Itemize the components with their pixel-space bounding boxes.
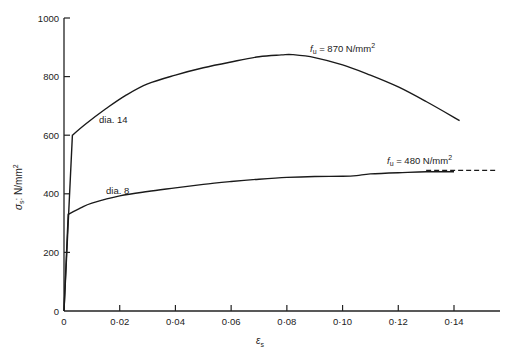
x-axis-title: εs (256, 335, 264, 348)
x-tick-label: 0·10 (333, 316, 352, 327)
x-ticks: 00·020·040·060·080·100·120·14 (61, 305, 463, 327)
y-tick-label: 0 (54, 306, 59, 317)
stress-strain-chart: 02004006008001000 00·020·040·060·080·100… (0, 0, 519, 361)
y-tick-label: 200 (43, 247, 59, 258)
x-tick-label: 0·06 (222, 316, 241, 327)
y-axis-title: σs: N/mm2 (12, 164, 25, 210)
x-tick-label: 0·04 (166, 316, 185, 327)
x-tick-label: 0·02 (110, 316, 129, 327)
x-tick-label: 0·08 (277, 316, 296, 327)
series-layer (64, 54, 460, 311)
annotation-fu-870: fu = 870 N/mm2 (310, 42, 375, 55)
x-tick-label: 0·14 (444, 316, 463, 327)
label-dia-14: dia. 14 (99, 114, 128, 125)
x-tick-label: 0·12 (389, 316, 408, 327)
y-tick-label: 400 (43, 188, 59, 199)
y-tick-label: 600 (43, 130, 59, 141)
x-tick-label: 0 (61, 316, 66, 327)
series-curve-dia-14 (64, 54, 460, 311)
annotation-fu-480: fu = 480 N/mm2 (387, 154, 452, 167)
y-tick-label: 1000 (38, 13, 59, 24)
label-dia-8: dia. 8 (106, 185, 129, 196)
y-tick-label: 800 (43, 71, 59, 82)
